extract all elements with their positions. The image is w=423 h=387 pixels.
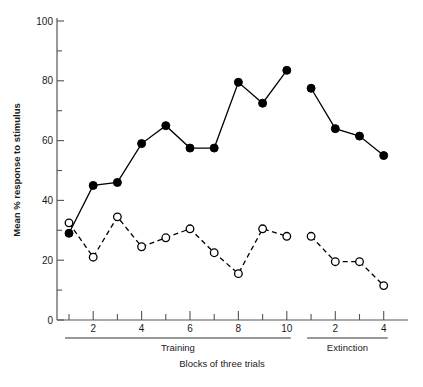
data-point-open-circle-training-10: [283, 232, 291, 240]
data-point-filled-circle-training-3: [113, 178, 121, 186]
data-point-open-circle-extinction-4: [380, 282, 388, 290]
x-tick-label: 2: [90, 323, 96, 334]
data-point-filled-circle-training-10: [283, 66, 291, 74]
x-tick-label: 8: [236, 323, 242, 334]
y-tick-label: 40: [42, 195, 54, 206]
data-point-filled-circle-training-4: [138, 140, 146, 148]
y-tick-label: 0: [47, 315, 53, 326]
data-point-open-circle-extinction-1: [307, 232, 315, 240]
svg-text:Mean % response to stimulus: Mean % response to stimulus: [11, 103, 22, 237]
data-point-filled-circle-training-5: [162, 122, 170, 130]
data-point-open-circle-training-8: [235, 270, 243, 278]
data-point-filled-circle-extinction-3: [356, 132, 364, 140]
chart-figure: 020406080100 24681024 TrainingExtinction…: [0, 0, 423, 387]
x-tick-label: 4: [381, 323, 387, 334]
data-point-open-circle-training-3: [114, 213, 122, 221]
data-point-open-circle-training-9: [259, 225, 267, 233]
data-point-filled-circle-extinction-4: [380, 152, 388, 160]
data-point-open-circle-training-6: [186, 225, 194, 233]
x-tick-label: 10: [281, 323, 293, 334]
x-tick-label: 4: [139, 323, 145, 334]
y-tick-label: 60: [42, 135, 54, 146]
x-axis-title: Blocks of three trials: [179, 358, 265, 369]
data-point-open-circle-training-4: [138, 243, 146, 251]
y-tick-label: 20: [42, 255, 54, 266]
phase-label-training: Training: [161, 342, 195, 353]
data-point-filled-circle-extinction-2: [331, 125, 339, 133]
y-axis-title: Mean % response to stimulus: [11, 103, 22, 237]
x-tick-label: 2: [333, 323, 339, 334]
data-point-filled-circle-training-9: [259, 99, 267, 107]
data-point-filled-circle-training-7: [210, 144, 218, 152]
chart-background: [0, 0, 423, 387]
data-point-filled-circle-training-1: [65, 229, 73, 237]
x-tick-label: 6: [187, 323, 193, 334]
data-point-filled-circle-training-2: [89, 181, 97, 189]
data-point-filled-circle-training-8: [234, 78, 242, 86]
data-point-open-circle-extinction-2: [332, 258, 340, 266]
data-point-open-circle-training-5: [162, 234, 170, 242]
data-point-open-circle-training-1: [65, 219, 73, 227]
data-point-open-circle-training-2: [89, 253, 97, 261]
data-point-open-circle-extinction-3: [356, 258, 364, 266]
data-point-open-circle-training-7: [210, 249, 218, 257]
data-point-filled-circle-extinction-1: [307, 84, 315, 92]
phase-label-extinction: Extinction: [327, 342, 368, 353]
line-chart: 020406080100 24681024 TrainingExtinction…: [0, 0, 423, 387]
data-point-filled-circle-training-6: [186, 144, 194, 152]
y-tick-label: 100: [36, 16, 53, 27]
y-tick-label: 80: [42, 75, 54, 86]
